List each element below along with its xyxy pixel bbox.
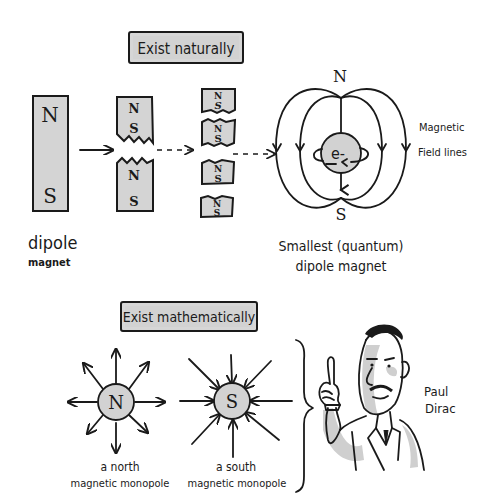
magnet-caption: magnet [28, 256, 71, 269]
electron-south-label: S [336, 205, 347, 224]
heading-exist-mathematically: Exist mathematically [121, 302, 257, 331]
field-lines-label: Magnetic [419, 121, 464, 134]
heading-exist-naturally: Exist naturally [129, 32, 243, 63]
north-monopole: N [69, 350, 164, 452]
magnet-diagram: Exist naturally N S dipole magnet N S N … [0, 0, 500, 502]
heading-text: Exist naturally [138, 40, 235, 58]
north-pole-label: N [41, 103, 59, 127]
small-magnet-pieces: N S N S N S N S [201, 89, 235, 218]
piece-north: N [128, 168, 140, 183]
south-monopole-symbol: S [226, 391, 238, 412]
piece-south: S [214, 173, 221, 184]
quantum-caption: Smallest (quantum) [279, 238, 404, 254]
south-monopole: S [180, 355, 292, 457]
piece-south: S [214, 208, 221, 218]
electron-symbol: e- [331, 144, 345, 163]
dipole-bar-magnet: N S [33, 96, 68, 211]
north-monopole-symbol: N [108, 392, 124, 413]
split-magnet-pieces: N S N S [117, 97, 153, 211]
piece-south: S [214, 100, 221, 111]
quantum-caption: dipole magnet [295, 258, 386, 274]
field-lines-label: Field lines [418, 146, 467, 159]
south-monopole-caption: magnetic monopole [188, 477, 287, 490]
north-monopole-caption: a north [101, 460, 140, 474]
piece-south: S [129, 121, 138, 136]
person-name: Paul [424, 384, 448, 399]
field-arrow-icon [273, 144, 281, 151]
electron-dipole: N e- S [273, 67, 410, 224]
south-monopole-caption: a south [216, 460, 256, 474]
paul-dirac-portrait [319, 325, 424, 470]
piece-north: N [129, 102, 140, 116]
heading-text: Exist mathematically [123, 309, 256, 325]
dipole-caption: dipole [28, 232, 77, 253]
north-monopole-caption: magnetic monopole [71, 477, 170, 490]
curly-brace [296, 340, 313, 492]
electron-north-label: N [333, 67, 347, 86]
piece-south: S [129, 194, 138, 209]
south-pole-label: S [43, 184, 57, 208]
person-name: Dirac [425, 401, 456, 416]
piece-south: S [214, 133, 221, 144]
